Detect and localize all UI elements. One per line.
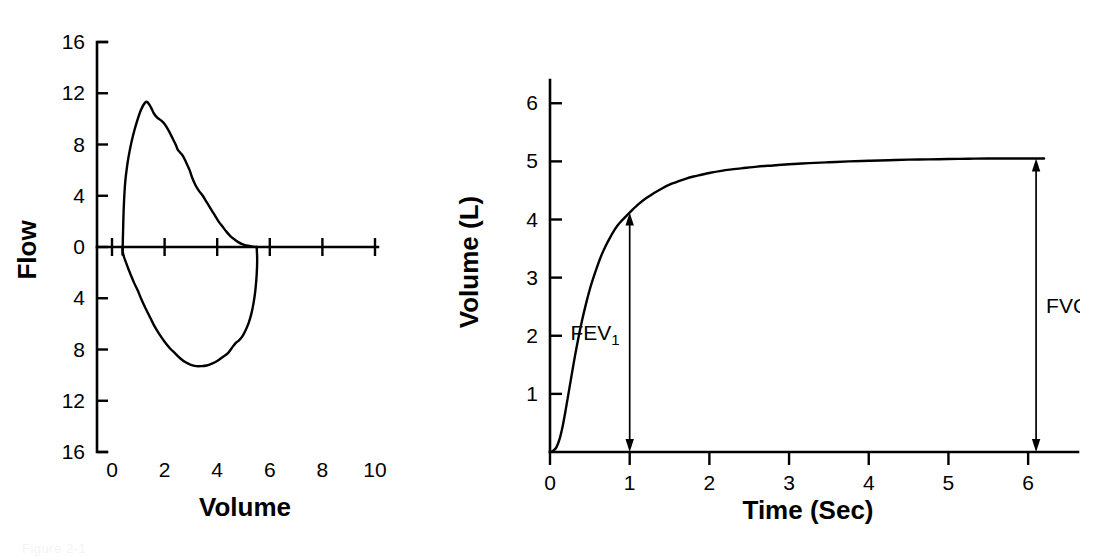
volume-ticklabel-5: 5 [526,149,538,172]
time-axis-tick-labels: 0123456 [544,471,1034,494]
annotation-FVC: FVC [1032,158,1080,452]
volume-ticklabel-0: 0 [106,458,118,481]
volume-ticklabel-8: 8 [317,458,329,481]
annotation-subscript-FEV1: 1 [611,331,619,348]
flow-ticklabel-0: 0 [73,235,85,258]
time-ticklabel-1: 1 [624,471,636,494]
annotation-label-FVC: FVC [1046,294,1080,317]
annotation-FEV1: FEV1 [571,213,634,452]
time-ticklabel-4: 4 [863,471,875,494]
annotation-label-FEV1: FEV1 [571,321,620,348]
flow-ticklabel-12: 12 [62,389,85,412]
flow-ticklabel-8: 8 [73,338,85,361]
time-ticklabel-2: 2 [704,471,716,494]
time-ticklabel-5: 5 [943,471,955,494]
time-axis-ticks [550,452,1028,465]
volume-ticklabel-6: 6 [526,91,538,114]
exhaled-volume-curve [550,158,1044,452]
flow-volume-loop-chart: 1612840481216 0246810 Flow Volume [0,0,420,530]
spirometry-figure: 1612840481216 0246810 Flow Volume 123456… [0,0,1108,560]
flow-ticklabel-16: 16 [62,30,85,53]
volume-ticklabel-1: 1 [526,382,538,405]
inspiratory-limb-curve [123,247,258,366]
arrowhead-down-FEV1 [625,439,633,452]
time-ticklabel-0: 0 [544,471,556,494]
time-axis-title: Time (Sec) [742,495,873,525]
volume-ticklabel-3: 3 [526,266,538,289]
flow-ticklabel-4: 4 [73,286,85,309]
volume-axis-tick-labels: 0246810 [106,458,387,481]
volume-axis-tick-labels: 123456 [526,91,538,405]
volume-time-spirogram-chart: 123456 0123456 FEV1FVC Volume (L) Time (… [440,0,1080,530]
spirogram-annotations: FEV1FVC [571,158,1081,452]
volume-ticklabel-10: 10 [363,458,386,481]
volume-ticklabel-6: 6 [264,458,276,481]
time-ticklabel-3: 3 [783,471,795,494]
arrowhead-up-FVC [1032,158,1040,171]
arrowhead-down-FVC [1032,439,1040,452]
volume-axis-ticks [550,103,562,394]
figure-caption: Figure 2-1 [22,541,86,556]
time-ticklabel-6: 6 [1022,471,1034,494]
volume-axis-title: Volume [199,492,291,522]
volume-ticklabel-4: 4 [526,208,538,231]
volume-ticklabel-4: 4 [211,458,223,481]
expiratory-limb-curve [123,102,257,255]
flow-axis-tick-labels: 1612840481216 [62,30,86,463]
volume-ticklabel-2: 2 [526,324,538,347]
volume-axis-title: Volume (L) [454,196,484,328]
flow-ticklabel-8: 8 [73,133,85,156]
volume-ticklabel-2: 2 [159,458,171,481]
flow-ticklabel-12: 12 [62,81,85,104]
flow-axis-title: Flow [12,220,42,280]
flow-ticklabel-16: 16 [62,440,85,463]
flow-ticklabel-4: 4 [73,184,85,207]
